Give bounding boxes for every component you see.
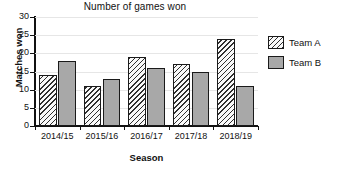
y-axis-tick bbox=[30, 90, 35, 91]
y-axis-tick-label: 25 bbox=[3, 30, 29, 39]
y-axis-tick bbox=[30, 72, 35, 73]
bar-team-a-2018-19 bbox=[217, 39, 235, 126]
x-axis-title: Season bbox=[35, 152, 258, 163]
legend-item-team-a[interactable]: Team A bbox=[268, 36, 347, 49]
bar-team-b-2017-18 bbox=[192, 72, 210, 127]
x-axis-tick-label: 2015/16 bbox=[80, 131, 125, 141]
y-axis-tick-label: 10 bbox=[3, 85, 29, 94]
x-axis-tick-label: 2016/17 bbox=[124, 131, 169, 141]
y-axis-tick-labels: 051015202530 bbox=[0, 0, 29, 171]
y-axis-tick-label: 5 bbox=[3, 103, 29, 112]
bar-team-a-2016-17 bbox=[128, 57, 146, 126]
x-axis-tick bbox=[213, 126, 214, 130]
x-axis-tick bbox=[35, 126, 36, 130]
y-axis-tick bbox=[30, 53, 35, 54]
x-axis-tick-label: 2014/15 bbox=[35, 131, 80, 141]
legend-swatch-icon bbox=[268, 56, 284, 69]
y-axis-tick-label: 30 bbox=[3, 12, 29, 21]
x-axis-tick-label: 2017/18 bbox=[169, 131, 214, 141]
legend-label: Team B bbox=[289, 57, 321, 68]
bar-team-b-2015-16 bbox=[103, 79, 121, 126]
bar-team-b-2014-15 bbox=[58, 61, 76, 126]
x-axis-tick bbox=[258, 126, 259, 130]
y-axis-tick bbox=[30, 35, 35, 36]
bar-team-a-2015-16 bbox=[84, 86, 102, 126]
gridline bbox=[35, 17, 258, 18]
chart-title: Number of games won bbox=[0, 1, 270, 12]
plot-area bbox=[35, 17, 258, 126]
y-axis-tick bbox=[30, 17, 35, 18]
bar-chart: Number of games won Matches won Season 0… bbox=[0, 0, 347, 171]
y-axis-tick bbox=[30, 108, 35, 109]
bar-team-a-2014-15 bbox=[39, 75, 57, 126]
chart-legend: Team ATeam B bbox=[268, 36, 347, 76]
y-axis-tick-label: 0 bbox=[3, 121, 29, 130]
x-axis-tick-label: 2018/19 bbox=[213, 131, 258, 141]
x-axis-tick bbox=[124, 126, 125, 130]
y-axis-tick-label: 20 bbox=[3, 48, 29, 57]
legend-swatch-icon bbox=[268, 36, 284, 49]
y-axis-tick-label: 15 bbox=[3, 67, 29, 76]
x-axis-tick bbox=[80, 126, 81, 130]
bar-team-b-2018-19 bbox=[236, 86, 254, 126]
legend-label: Team A bbox=[289, 37, 321, 48]
x-axis-tick bbox=[169, 126, 170, 130]
legend-item-team-b[interactable]: Team B bbox=[268, 56, 347, 69]
gridline bbox=[35, 35, 258, 36]
bar-team-a-2017-18 bbox=[173, 64, 191, 126]
bar-team-b-2016-17 bbox=[147, 68, 165, 126]
